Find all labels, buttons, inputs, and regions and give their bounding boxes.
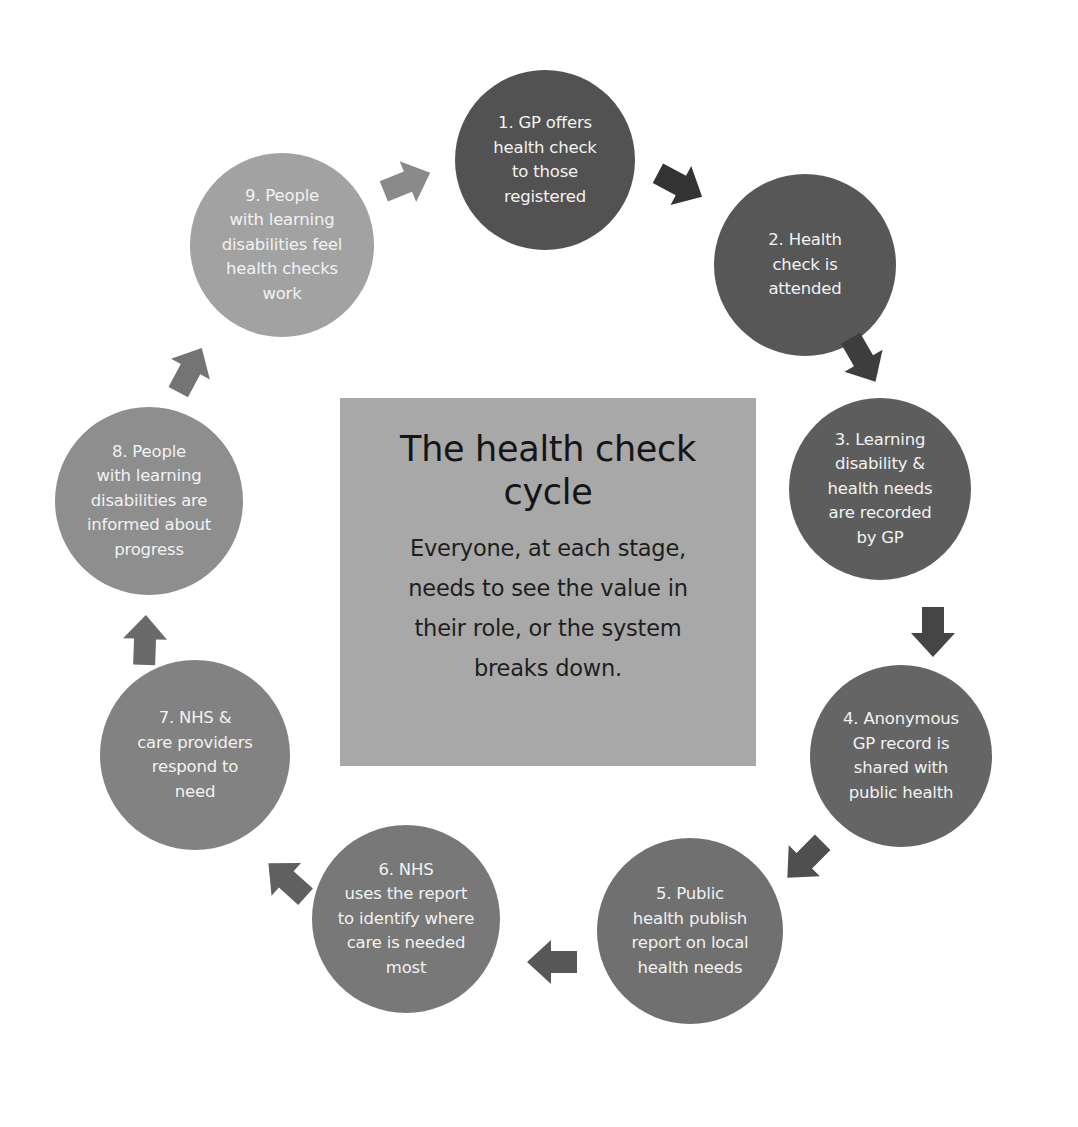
arrow-down-left-icon (772, 827, 838, 893)
cycle-step-4: 4. Anonymous GP record is shared with pu… (810, 665, 992, 847)
cycle-step-9: 9. People with learning disabilities fee… (190, 153, 374, 337)
step-label: 1. GP offers health check to those regis… (493, 111, 596, 209)
arrow-left-icon (527, 940, 577, 984)
step-label: 4. Anonymous GP record is shared with pu… (843, 707, 959, 805)
arrow-right-down-icon (648, 154, 713, 216)
step-label: 8. People with learning disabilities are… (87, 440, 211, 563)
cycle-step-5: 5. Public health publish report on local… (597, 838, 783, 1024)
cycle-step-3: 3. Learning disability & health needs ar… (789, 398, 971, 580)
step-label: 6. NHS uses the report to identify where… (338, 858, 474, 981)
cycle-step-1: 1. GP offers health check to those regis… (455, 70, 635, 250)
arrow-up-right-icon (159, 338, 221, 403)
diagram-title: The health check cycle (340, 428, 756, 514)
cycle-step-8: 8. People with learning disabilities are… (55, 407, 243, 595)
arrow-up-left-icon (254, 847, 321, 913)
step-label: 5. Public health publish report on local… (632, 882, 749, 980)
arrow-up-icon (122, 614, 168, 666)
step-label: 9. People with learning disabilities fee… (222, 184, 342, 307)
step-label: 7. NHS & care providers respond to need (137, 706, 253, 804)
health-check-cycle-diagram: The health check cycle Everyone, at each… (0, 0, 1078, 1127)
diagram-subtitle: Everyone, at each stage, needs to see th… (340, 528, 756, 688)
step-label: 3. Learning disability & health needs ar… (828, 428, 933, 551)
cycle-step-6: 6. NHS uses the report to identify where… (312, 825, 500, 1013)
arrow-down-icon (911, 607, 955, 657)
arrow-right-icon (376, 152, 439, 212)
center-box: The health check cycle Everyone, at each… (340, 398, 756, 766)
step-label: 2. Health check is attended (768, 228, 841, 302)
cycle-step-7: 7. NHS & care providers respond to need (100, 660, 290, 850)
